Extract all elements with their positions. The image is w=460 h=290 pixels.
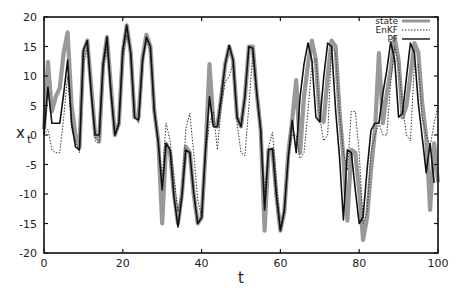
x-tick-label: 80 [352, 257, 366, 270]
x-axis-label: t [238, 269, 244, 287]
y-tick-label: -20 [19, 247, 37, 260]
y-tick-label: 15 [23, 41, 37, 54]
y-tick-label: 20 [23, 11, 37, 24]
series-layer [44, 25, 438, 240]
y-axis-label-main: x [16, 124, 25, 142]
line-chart: 02040608010020151050-5-10-15-20 x t t st… [0, 0, 460, 290]
x-tick-label: 60 [273, 257, 287, 270]
y-tick-label: 10 [23, 70, 37, 83]
y-axis-label-subscript: t [27, 133, 32, 146]
x-tick-label: 100 [428, 257, 449, 270]
legend-label-pf: PF [387, 34, 398, 44]
y-tick-label: -15 [19, 218, 37, 231]
y-tick-label: 5 [30, 100, 37, 113]
legend: state EnKF PF [375, 16, 430, 44]
x-tick-label: 20 [116, 257, 130, 270]
series-state [44, 25, 438, 240]
y-axis-label: x t [16, 124, 32, 146]
y-tick-label: -5 [26, 159, 37, 172]
x-tick-label: 40 [195, 257, 209, 270]
y-tick-label: -10 [19, 188, 37, 201]
x-tick-label: 0 [41, 257, 48, 270]
